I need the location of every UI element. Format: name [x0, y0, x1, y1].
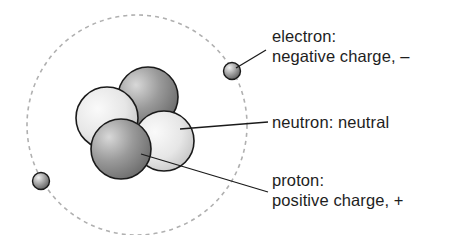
- proton-label-charge: positive charge, +: [272, 190, 404, 210]
- electron-leader-line: [236, 50, 266, 68]
- electron-sphere-bottom: [33, 173, 50, 190]
- electron-sphere-top: [224, 63, 241, 80]
- proton-sphere-front: [91, 119, 151, 179]
- electron-label-charge: negative charge, –: [272, 46, 410, 66]
- neutron-label: neutron: neutral: [272, 112, 389, 132]
- neutron-label-title: neutron: neutral: [272, 112, 389, 132]
- proton-label-title: proton:: [272, 170, 404, 190]
- proton-label: proton: positive charge, +: [272, 170, 404, 210]
- electron-label-title: electron:: [272, 26, 410, 46]
- neutron-leader-line: [180, 122, 268, 129]
- proton-leader-line: [141, 154, 268, 192]
- electron-label: electron: negative charge, –: [272, 26, 410, 66]
